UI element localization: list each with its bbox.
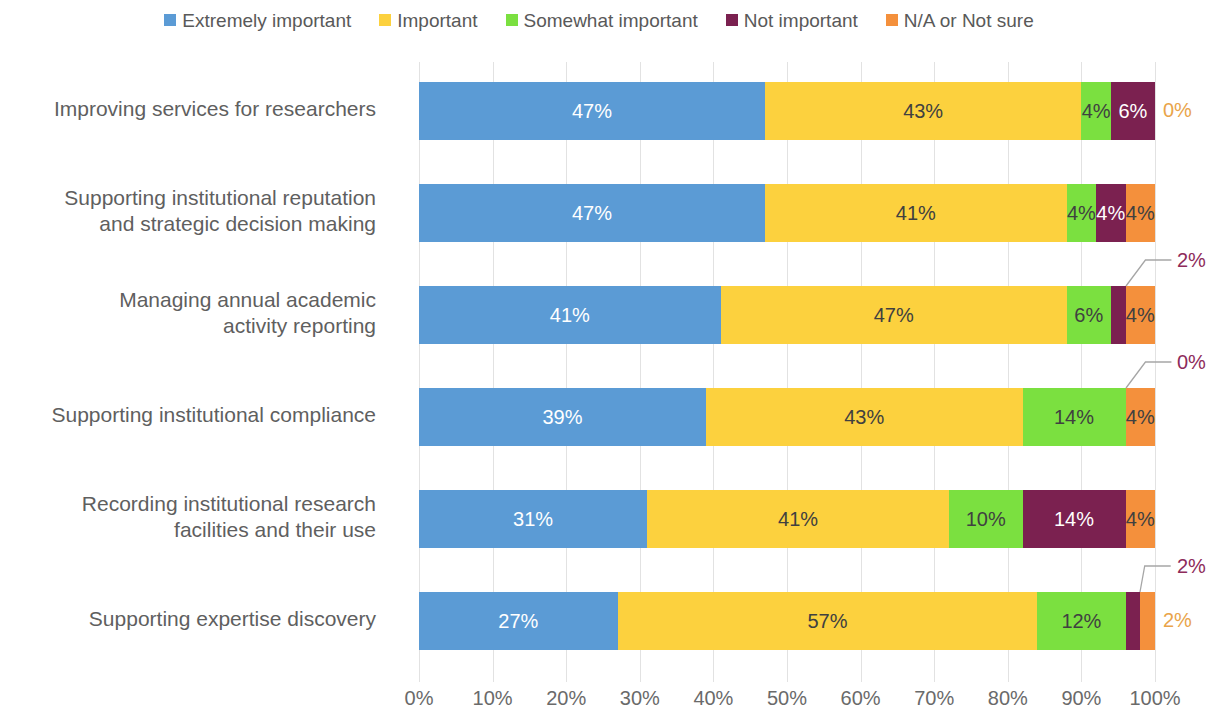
legend-item[interactable]: Extremely important bbox=[164, 11, 351, 30]
segment-value-label: 41% bbox=[896, 203, 936, 223]
bar-segment[interactable]: 41% bbox=[765, 184, 1067, 242]
segment-callout-label: 2% bbox=[1163, 610, 1192, 630]
bar-segment[interactable]: 57% bbox=[618, 592, 1038, 650]
legend-swatch-icon bbox=[164, 14, 176, 26]
segment-value-label: 4% bbox=[1067, 203, 1096, 223]
segment-value-label: 39% bbox=[543, 407, 583, 427]
segment-value-label: 57% bbox=[807, 611, 847, 631]
bar-segment[interactable]: 4% bbox=[1126, 388, 1155, 446]
category-label-line: Supporting institutional reputation bbox=[0, 185, 376, 211]
gridline bbox=[713, 62, 714, 682]
axis-tick-label: 100% bbox=[1129, 688, 1180, 708]
legend-swatch-icon bbox=[379, 14, 391, 26]
axis-tick-label: 80% bbox=[988, 688, 1028, 708]
bar-segment[interactable]: 4% bbox=[1067, 184, 1096, 242]
bar-segment[interactable]: 4% bbox=[1126, 490, 1155, 548]
bar-segment[interactable]: 4% bbox=[1126, 184, 1155, 242]
legend-swatch-icon bbox=[506, 14, 518, 26]
bar-segment[interactable]: 47% bbox=[419, 184, 765, 242]
bar-segment[interactable]: 6% bbox=[1067, 286, 1111, 344]
chart-legend: Extremely importantImportantSomewhat imp… bbox=[0, 6, 1198, 34]
legend-item[interactable]: Not important bbox=[726, 11, 858, 30]
segment-value-label: 4% bbox=[1126, 203, 1155, 223]
gridline bbox=[934, 62, 935, 682]
stacked-bar[interactable]: 47%41%4%4%4% bbox=[419, 184, 1155, 242]
bar-segment[interactable]: 14% bbox=[1023, 490, 1126, 548]
axis-tick-label: 60% bbox=[841, 688, 881, 708]
axis-tick-label: 0% bbox=[405, 688, 434, 708]
plot-area: 47%43%4%6%0%47%41%4%4%4%41%47%6%4%2%39%4… bbox=[419, 62, 1155, 682]
axis-tick-label: 90% bbox=[1061, 688, 1101, 708]
bar-segment[interactable]: 12% bbox=[1037, 592, 1125, 650]
legend-swatch-icon bbox=[886, 14, 898, 26]
axis-tick-label: 50% bbox=[767, 688, 807, 708]
bar-row: 41%47%6%4%2% bbox=[419, 286, 1155, 344]
legend-item[interactable]: Important bbox=[379, 11, 477, 30]
segment-value-label: 4% bbox=[1126, 509, 1155, 529]
legend-item[interactable]: N/A or Not sure bbox=[886, 11, 1034, 30]
legend-item-label: Not important bbox=[744, 11, 858, 30]
category-label-line: Managing annual academic bbox=[0, 287, 376, 313]
bar-segment[interactable]: 4% bbox=[1126, 286, 1155, 344]
category-label: Supporting institutional compliance bbox=[0, 402, 400, 428]
bar-segment[interactable]: 4% bbox=[1096, 184, 1125, 242]
bar-row: 31%41%10%14%4% bbox=[419, 490, 1155, 548]
stacked-bar[interactable]: 39%43%14%4% bbox=[419, 388, 1155, 446]
category-axis-labels: Improving services for researchersSuppor… bbox=[0, 62, 400, 682]
segment-value-label: 14% bbox=[1054, 407, 1094, 427]
segment-value-label: 4% bbox=[1126, 305, 1155, 325]
gridline bbox=[566, 62, 567, 682]
segment-value-label: 41% bbox=[550, 305, 590, 325]
axis-tick-label: 20% bbox=[546, 688, 586, 708]
bar-row: 27%57%12%2%2% bbox=[419, 592, 1155, 650]
legend-item-label: N/A or Not sure bbox=[904, 11, 1034, 30]
legend-item[interactable]: Somewhat important bbox=[506, 11, 698, 30]
stacked-bar[interactable]: 31%41%10%14%4% bbox=[419, 490, 1155, 548]
bar-segment[interactable] bbox=[1111, 286, 1126, 344]
bar-segment[interactable]: 47% bbox=[721, 286, 1067, 344]
bar-segment[interactable]: 31% bbox=[419, 490, 647, 548]
bar-segment[interactable]: 6% bbox=[1111, 82, 1155, 140]
gridline bbox=[1155, 62, 1156, 682]
category-label: Recording institutional researchfaciliti… bbox=[0, 491, 400, 544]
axis-tick-label: 30% bbox=[620, 688, 660, 708]
gridline bbox=[861, 62, 862, 682]
bar-segment[interactable]: 10% bbox=[949, 490, 1023, 548]
bar-segment[interactable]: 4% bbox=[1081, 82, 1110, 140]
segment-value-label: 47% bbox=[874, 305, 914, 325]
segment-callout-label: 2% bbox=[1177, 556, 1206, 576]
bar-segment[interactable] bbox=[1140, 592, 1155, 650]
bar-segment[interactable]: 43% bbox=[706, 388, 1022, 446]
stacked-bar[interactable]: 27%57%12% bbox=[419, 592, 1155, 650]
bar-segment[interactable]: 41% bbox=[647, 490, 949, 548]
segment-value-label: 4% bbox=[1082, 101, 1111, 121]
segment-value-label: 43% bbox=[903, 101, 943, 121]
bar-segment[interactable]: 14% bbox=[1023, 388, 1126, 446]
segment-value-label: 31% bbox=[513, 509, 553, 529]
stacked-bar[interactable]: 41%47%6%4% bbox=[419, 286, 1155, 344]
legend-item-label: Somewhat important bbox=[524, 11, 698, 30]
category-label-line: facilities and their use bbox=[0, 517, 376, 543]
bar-segment[interactable]: 43% bbox=[765, 82, 1081, 140]
bar-segment[interactable] bbox=[1126, 592, 1141, 650]
bar-segment[interactable]: 39% bbox=[419, 388, 706, 446]
category-label-line: activity reporting bbox=[0, 313, 376, 339]
gridline bbox=[1008, 62, 1009, 682]
segment-value-label: 47% bbox=[572, 101, 612, 121]
gridline bbox=[787, 62, 788, 682]
axis-tick-label: 10% bbox=[473, 688, 513, 708]
segment-callout-label: 2% bbox=[1177, 250, 1206, 270]
axis-tick-label: 70% bbox=[914, 688, 954, 708]
bar-segment[interactable]: 27% bbox=[419, 592, 618, 650]
axis-tick-label: 40% bbox=[693, 688, 733, 708]
bar-segment[interactable]: 41% bbox=[419, 286, 721, 344]
category-label-line: and strategic decision making bbox=[0, 211, 376, 237]
category-label: Supporting expertise discovery bbox=[0, 606, 400, 632]
category-label: Improving services for researchers bbox=[0, 96, 400, 122]
category-label: Supporting institutional reputationand s… bbox=[0, 185, 400, 238]
category-label: Managing annual academicactivity reporti… bbox=[0, 287, 400, 340]
segment-value-label: 14% bbox=[1054, 509, 1094, 529]
bar-segment[interactable]: 47% bbox=[419, 82, 765, 140]
stacked-bar[interactable]: 47%43%4%6% bbox=[419, 82, 1155, 140]
segment-value-label: 6% bbox=[1118, 101, 1147, 121]
